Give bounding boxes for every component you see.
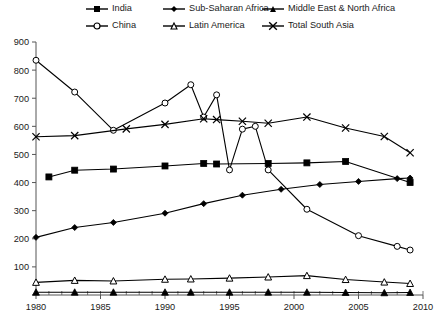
x-tick-label: 2000 [284, 302, 304, 312]
data-point [110, 166, 116, 172]
x-tick-label: 1995 [219, 302, 239, 312]
y-tick-label: 400 [14, 178, 29, 188]
data-point [72, 89, 78, 95]
series-line [36, 292, 410, 293]
data-point [162, 210, 168, 216]
series-latin-america [33, 272, 414, 286]
data-point [304, 160, 310, 166]
y-tick-label: 100 [14, 262, 29, 272]
data-point [188, 82, 194, 88]
line-chart: IndiaSub-Saharan AfricaMiddle East & Nor… [0, 0, 435, 317]
data-point [110, 219, 116, 225]
data-point [162, 100, 168, 106]
y-tick-label: 600 [14, 122, 29, 132]
x-tick-label: 1990 [155, 302, 175, 312]
x-tick-label: 2005 [348, 302, 368, 312]
data-point [356, 178, 362, 184]
data-point [343, 158, 349, 164]
data-point [33, 234, 39, 240]
data-point [407, 149, 414, 156]
data-point [317, 182, 323, 188]
data-point [239, 192, 245, 198]
series-china [33, 57, 413, 253]
data-point [239, 126, 245, 132]
data-point [33, 57, 39, 63]
y-tick-label: 500 [14, 150, 29, 160]
y-tick-label: 300 [14, 206, 29, 216]
data-point [227, 167, 233, 173]
data-point [407, 247, 413, 253]
data-point [201, 201, 207, 207]
series-line [36, 276, 410, 284]
y-tick-label: 700 [14, 94, 29, 104]
data-point [72, 167, 78, 173]
data-point [394, 176, 400, 182]
y-tick-label: 200 [14, 234, 29, 244]
data-point [278, 186, 284, 192]
series-line [36, 178, 410, 237]
data-point [46, 174, 52, 180]
x-tick-label: 1980 [26, 302, 46, 312]
y-tick-label: 900 [14, 37, 29, 47]
series-line [36, 60, 410, 250]
data-point [72, 225, 78, 231]
data-point [214, 161, 220, 167]
data-point [214, 92, 220, 98]
data-point [304, 206, 310, 212]
data-point [265, 167, 271, 173]
data-point [162, 163, 168, 169]
plot-area: 1002003004005006007008009001980198519901… [0, 0, 435, 317]
x-tick-label: 2010 [413, 302, 433, 312]
data-point [252, 123, 258, 129]
data-point [356, 233, 362, 239]
x-tick-label: 1985 [90, 302, 110, 312]
data-point [201, 160, 207, 166]
data-point [394, 243, 400, 249]
y-tick-label: 800 [14, 66, 29, 76]
series-sub-saharan-africa [33, 175, 413, 240]
